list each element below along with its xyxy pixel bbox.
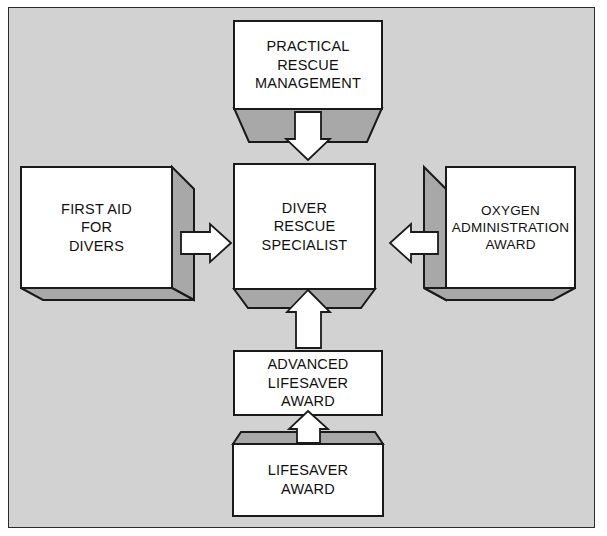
first-aid-for-divers-box[interactable]	[21, 167, 172, 288]
diagram-canvas: .shp-line { stroke: #1a1a1a; stroke-widt…	[0, 0, 607, 536]
diagram-root: .shp-line { stroke: #1a1a1a; stroke-widt…	[0, 0, 607, 536]
advanced-lifesaver-award-box[interactable]	[234, 351, 382, 415]
node-diver-rescue-specialist[interactable]	[234, 164, 375, 308]
practical-rescue-management-box[interactable]	[234, 21, 382, 109]
node-lifesaver-award[interactable]	[233, 432, 383, 516]
node-first-aid-for-divers[interactable]	[21, 167, 194, 300]
lifesaver-award-box[interactable]	[233, 444, 383, 516]
oxygen-administration-award-bottom-shadow	[424, 288, 575, 300]
first-aid-for-divers-bottom-shadow	[21, 288, 194, 300]
node-advanced-lifesaver-award[interactable]	[234, 351, 382, 415]
node-oxygen-administration-award[interactable]	[424, 167, 575, 300]
oxygen-administration-award-box[interactable]	[446, 167, 575, 288]
diver-rescue-specialist-box[interactable]	[234, 164, 375, 289]
